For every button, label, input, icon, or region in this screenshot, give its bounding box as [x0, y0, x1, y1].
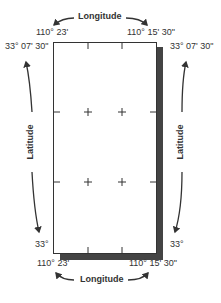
- right-bottom-latitude: 33°: [170, 239, 184, 249]
- arrow-top-left-icon: [54, 18, 74, 25]
- arrow-top-right-icon: [126, 18, 147, 25]
- top-right-longitude: 110° 15' 30": [127, 27, 175, 37]
- bottom-longitude-label: Longitude: [80, 274, 124, 284]
- frame-shadow-right: [156, 47, 163, 260]
- bottom-right-longitude: 110° 15' 30": [129, 258, 177, 268]
- right-top-latitude: 33° 07' 30": [170, 41, 214, 51]
- arrow-left-up-icon: [26, 62, 32, 112]
- arrow-bottom-left-icon: [56, 273, 74, 280]
- bottom-left-longitude: 110° 23': [37, 258, 69, 268]
- left-top-latitude: 33° 07' 30": [5, 41, 49, 51]
- arrow-right-up-icon: [182, 62, 186, 112]
- arrow-right-down-icon: [175, 172, 182, 232]
- arrow-bottom-right-icon: [128, 273, 148, 280]
- right-latitude-label: Latitude: [175, 125, 185, 160]
- left-bottom-latitude: 33°: [35, 239, 49, 249]
- top-longitude-label: Longitude: [78, 11, 122, 21]
- arrow-left-down-icon: [32, 172, 39, 232]
- top-left-longitude: 110° 23': [36, 27, 68, 37]
- map-frame: [54, 43, 157, 254]
- left-latitude-label: Latitude: [25, 125, 35, 160]
